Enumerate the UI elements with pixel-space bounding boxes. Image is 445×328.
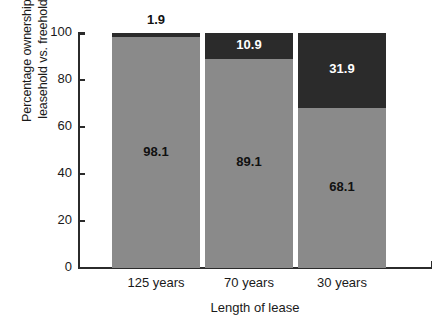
y-axis-tick-label: 40 [40, 165, 72, 180]
bar-segment-leasehold[interactable]: 89.1 [205, 59, 293, 268]
x-axis-title: Length of lease [78, 300, 432, 315]
bar-segment-freehold[interactable] [112, 33, 200, 37]
y-axis-tick-label: 20 [40, 212, 72, 227]
stacked-bar-chart: Percentage ownership: leasehold vs. free… [0, 0, 445, 328]
bar-value-label-freehold: 31.9 [298, 61, 386, 76]
bar-value-label-freehold: 1.9 [112, 12, 200, 27]
bar-segment-leasehold[interactable]: 68.1 [298, 108, 386, 268]
y-axis-tick-label: 60 [40, 118, 72, 133]
bar-value-label-freehold: 10.9 [205, 37, 293, 52]
bar-value-label-leasehold: 89.1 [205, 154, 293, 169]
bar-stack[interactable]: 98.11.9 [112, 33, 200, 268]
bar-stack[interactable]: 89.110.9 [205, 33, 293, 268]
y-axis-tick-label: 80 [40, 71, 72, 86]
plot-area: 98.11.989.110.968.131.9 [78, 33, 432, 268]
bar-stack[interactable]: 68.131.9 [298, 33, 386, 268]
bar-value-label-leasehold: 98.1 [112, 144, 200, 159]
y-axis-title-line-1: Percentage ownership: [19, 0, 35, 122]
y-axis-tick-label: 100 [40, 24, 72, 39]
bar-segment-freehold[interactable]: 31.9 [298, 33, 386, 108]
x-axis-category-label: 70 years [205, 275, 293, 290]
bar-segment-leasehold[interactable]: 98.1 [112, 37, 200, 268]
bar-value-label-leasehold: 68.1 [298, 179, 386, 194]
bar-segment-freehold[interactable]: 10.9 [205, 33, 293, 59]
y-axis-title-line-2: leasehold vs. freehold [35, 0, 51, 119]
x-axis-category-label: 125 years [112, 275, 200, 290]
y-axis-tick-label: 0 [40, 259, 72, 274]
x-axis-category-label: 30 years [298, 275, 386, 290]
